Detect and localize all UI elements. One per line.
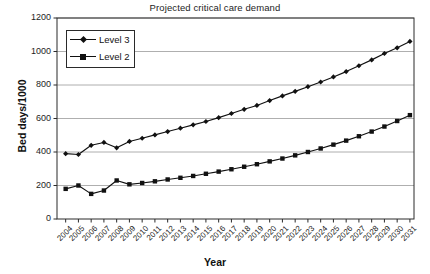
data-point-square <box>102 188 106 192</box>
legend-label-level-2: Level 2 <box>96 51 130 62</box>
legend-item-level-2: Level 2 <box>67 48 134 65</box>
data-point-square <box>280 156 284 160</box>
data-point-square <box>127 182 131 186</box>
data-point-square <box>395 119 399 123</box>
data-point-square <box>165 177 169 181</box>
data-point-square <box>76 183 80 187</box>
data-point-square <box>140 181 144 185</box>
data-point-square <box>344 138 348 142</box>
data-point-square <box>153 179 157 183</box>
data-point-square <box>408 113 412 117</box>
data-point-square <box>357 134 361 138</box>
plot-area <box>0 0 430 274</box>
data-point-square <box>191 174 195 178</box>
chart-legend: Level 3 Level 2 <box>66 30 135 68</box>
data-point-square <box>382 124 386 128</box>
data-point-square <box>204 172 208 176</box>
legend-label-level-3: Level 3 <box>96 34 130 45</box>
data-point-square <box>306 150 310 154</box>
legend-marker-square-icon <box>70 51 96 63</box>
data-point-square <box>242 165 246 169</box>
data-point-square <box>255 162 259 166</box>
data-point-square <box>331 142 335 146</box>
data-point-square <box>293 153 297 157</box>
data-point-square <box>318 146 322 150</box>
data-point-square <box>267 159 271 163</box>
legend-marker-diamond-icon <box>70 34 96 46</box>
data-point-square <box>63 187 67 191</box>
chart-figure: Projected critical care demand Bed days/… <box>0 0 430 274</box>
data-point-square <box>114 178 118 182</box>
legend-item-level-3: Level 3 <box>67 31 134 48</box>
data-point-square <box>89 192 93 196</box>
data-point-square <box>369 129 373 133</box>
data-point-square <box>178 176 182 180</box>
data-point-square <box>216 169 220 173</box>
data-point-square <box>229 167 233 171</box>
